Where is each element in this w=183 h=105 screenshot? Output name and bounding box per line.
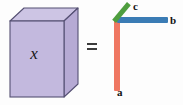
- vector-a-label: a: [117, 87, 123, 98]
- tensor-cuboid: x: [0, 0, 92, 105]
- vector-c-label: c: [133, 1, 138, 12]
- equals-bar-bottom: [87, 48, 97, 50]
- equals-bar-top: [87, 43, 97, 45]
- vector-b-bar: [117, 17, 168, 23]
- equals-icon: [87, 42, 98, 53]
- vector-group: a b c: [100, 0, 183, 105]
- tensor-decomposition-figure: x a b c: [0, 0, 183, 105]
- vector-a-bar: [114, 20, 120, 91]
- vector-b-label: b: [170, 15, 176, 26]
- tensor-label: x: [0, 45, 68, 62]
